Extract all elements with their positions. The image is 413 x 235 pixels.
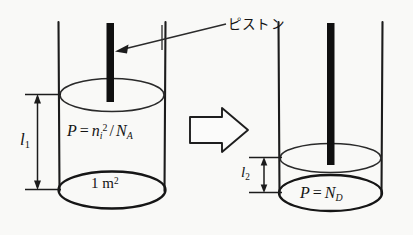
piston-leader-shaft bbox=[124, 24, 226, 49]
right-eq-lhs: P bbox=[300, 184, 310, 201]
left-height-label: l1 bbox=[20, 131, 30, 150]
left-eq-n: n bbox=[92, 122, 100, 139]
block-arrow-right-icon bbox=[190, 108, 248, 152]
diagram-canvas bbox=[0, 0, 413, 235]
left-piston-rod bbox=[107, 23, 115, 102]
transition-arrow-group bbox=[190, 108, 248, 152]
left-eq-N: N bbox=[116, 122, 127, 139]
right-eq-N-sub: D bbox=[335, 192, 342, 203]
piston-leader-arrowhead bbox=[115, 45, 129, 54]
left-cylinder-wall-left bbox=[59, 22, 60, 191]
area-exponent: 2 bbox=[114, 176, 119, 186]
l2-arrowhead-down bbox=[261, 185, 268, 194]
area-value: 1 bbox=[91, 175, 99, 191]
l1-subscript: 1 bbox=[25, 139, 30, 150]
left-base-area-label: 1 m2 bbox=[91, 176, 119, 191]
l2-arrowhead-up bbox=[261, 157, 268, 166]
l2-subscript: 2 bbox=[245, 172, 250, 182]
right-cylinder-wall-right bbox=[382, 22, 383, 194]
left-pressure-equation: P=ni2/NA bbox=[67, 123, 133, 141]
right-eq-N: N bbox=[325, 184, 336, 201]
left-eq-N-sub: A bbox=[127, 130, 133, 141]
piston-diagram-figure: ピストン l1 l2 P=ni2/NA 1 m2 P=ND bbox=[0, 0, 413, 235]
right-piston-rod bbox=[327, 23, 335, 165]
right-pressure-equation: P=ND bbox=[300, 185, 343, 203]
piston-callout-leader bbox=[115, 24, 226, 54]
right-height-dimension bbox=[249, 157, 282, 193]
left-cylinder-wall-right bbox=[165, 22, 166, 191]
right-cylinder-group bbox=[279, 22, 383, 211]
left-eq-equals: = bbox=[77, 122, 92, 139]
l1-arrowhead-down bbox=[34, 181, 41, 191]
right-cylinder-wall-left bbox=[279, 22, 280, 194]
area-unit: m bbox=[102, 175, 114, 191]
l1-arrowhead-up bbox=[34, 94, 41, 104]
left-eq-n-sup: 2 bbox=[103, 122, 108, 133]
left-eq-divider: / bbox=[108, 122, 116, 139]
left-height-dimension bbox=[25, 94, 61, 190]
left-eq-lhs: P bbox=[67, 122, 77, 139]
piston-callout-label: ピストン bbox=[228, 18, 285, 32]
right-height-label: l2 bbox=[241, 165, 250, 182]
right-eq-equals: = bbox=[310, 184, 325, 201]
